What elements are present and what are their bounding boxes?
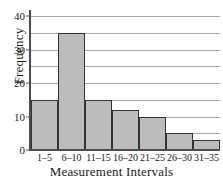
x-axis-tick-labels: 1–56–1011–1516–2021–2526–3031–35 [31, 152, 220, 163]
x-tick-label: 16–20 [112, 152, 139, 163]
y-axis-line [29, 10, 31, 150]
bar [139, 117, 166, 151]
bar [31, 100, 58, 150]
x-tick-label: 1–5 [31, 152, 58, 163]
x-tick-label: 21–25 [139, 152, 166, 163]
x-tick-label: 31–35 [193, 152, 220, 163]
y-tick-label: 20 [14, 77, 25, 89]
plot-area [31, 16, 220, 150]
x-tick-label: 11–15 [85, 152, 112, 163]
bar [58, 33, 85, 150]
histogram-chart: Frequency 010203040 1–56–1011–1516–2021–… [0, 0, 223, 182]
x-tick-label: 6–10 [58, 152, 85, 163]
y-tick-label: 0 [20, 144, 26, 156]
bar [166, 133, 193, 150]
bar [85, 100, 112, 150]
y-tick-label: 40 [14, 10, 25, 22]
y-tick-label: 10 [14, 111, 25, 123]
x-axis-line [29, 149, 220, 151]
y-tick-label: 30 [14, 44, 25, 56]
x-axis-title: Measurement Intervals [0, 164, 223, 180]
bar [112, 110, 139, 150]
y-axis-tick-labels: 010203040 [0, 0, 30, 182]
x-tick-label: 26–30 [166, 152, 193, 163]
bar-series [31, 16, 220, 150]
